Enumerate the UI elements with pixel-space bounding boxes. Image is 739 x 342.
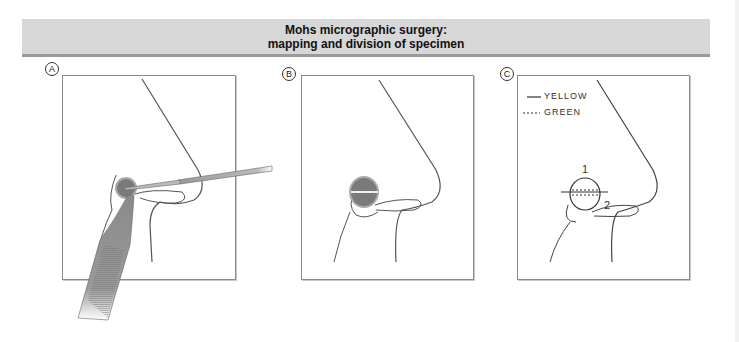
nasal-ala [592,205,638,216]
panel-c-illustration [0,0,739,342]
nose-profile [597,80,657,262]
legend-green-label: GREEN [544,107,581,117]
piece-number-2: 2 [604,199,610,211]
legend-yellow-label: YELLOW [544,91,588,101]
piece-number-1: 1 [582,163,588,175]
specimen-outline [570,178,600,210]
